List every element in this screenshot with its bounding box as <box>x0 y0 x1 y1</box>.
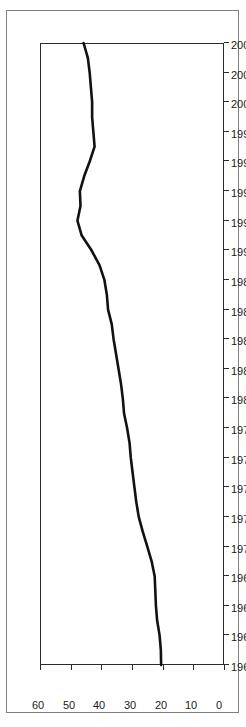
y-tick <box>163 665 164 670</box>
x-tick-label: 1970 <box>231 543 246 555</box>
y-tick-label: 60 <box>32 699 44 711</box>
x-tick <box>224 131 229 132</box>
y-tick <box>193 665 194 670</box>
x-tick <box>224 72 229 73</box>
x-tick <box>224 516 229 517</box>
x-tick-label: 1984 <box>231 335 246 347</box>
y-tick <box>132 665 133 670</box>
figure: 1962196419661968197019721974197619781980… <box>0 0 246 727</box>
x-tick <box>224 220 229 221</box>
x-tick <box>224 42 229 43</box>
x-tick-label: 1988 <box>231 276 246 288</box>
x-tick-label: 1982 <box>231 365 246 377</box>
x-tick <box>224 634 229 635</box>
x-tick-label: 2000 <box>231 98 246 110</box>
y-tick-label: 0 <box>216 699 222 711</box>
x-tick-label: 1964 <box>231 631 246 643</box>
y-tick-label: 40 <box>93 699 105 711</box>
x-tick <box>224 249 229 250</box>
x-tick <box>224 160 229 161</box>
y-tick-label: 10 <box>185 699 197 711</box>
x-tick <box>224 546 229 547</box>
rotated-chart-stage: 1962196419661968197019721974197619781980… <box>0 0 246 727</box>
x-tick <box>224 605 229 606</box>
x-tick-label: 1994 <box>231 187 246 199</box>
x-tick-label: 1966 <box>231 602 246 614</box>
x-tick <box>224 338 229 339</box>
x-tick-label: 1998 <box>231 128 246 140</box>
x-tick <box>224 457 229 458</box>
line-series-layer <box>40 43 224 665</box>
x-tick <box>224 427 229 428</box>
y-tick <box>71 665 72 670</box>
y-tick <box>40 665 41 670</box>
y-tick-label: 50 <box>63 699 75 711</box>
x-tick-label: 1986 <box>231 306 246 318</box>
x-tick <box>224 368 229 369</box>
x-tick-label: 2004 <box>231 39 246 51</box>
x-tick-label: 1996 <box>231 157 246 169</box>
y-tick-label: 30 <box>124 699 136 711</box>
x-tick-label: 1972 <box>231 513 246 525</box>
x-tick <box>224 397 229 398</box>
x-tick <box>224 279 229 280</box>
x-tick <box>224 309 229 310</box>
x-tick-label: 1974 <box>231 483 246 495</box>
x-tick-label: 1980 <box>231 394 246 406</box>
x-tick <box>224 575 229 576</box>
x-tick-label: 2002 <box>231 69 246 81</box>
series-1-line <box>77 43 161 665</box>
x-tick-label: 1976 <box>231 454 246 466</box>
x-tick-label: 1978 <box>231 424 246 436</box>
x-tick <box>224 101 229 102</box>
y-tick-label: 20 <box>155 699 167 711</box>
x-tick <box>224 486 229 487</box>
x-tick-label: 1992 <box>231 217 246 229</box>
x-tick-label: 1968 <box>231 572 246 584</box>
x-tick-label: 1990 <box>231 246 246 258</box>
x-tick-label: 1962 <box>231 661 246 673</box>
y-tick <box>224 665 225 670</box>
x-tick <box>224 190 229 191</box>
y-tick <box>101 665 102 670</box>
